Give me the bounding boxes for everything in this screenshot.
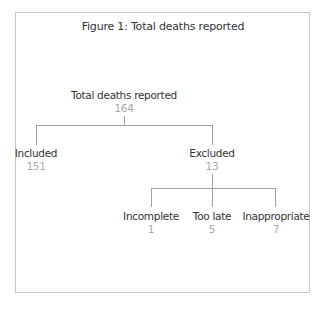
connector-level1-horizontal bbox=[36, 125, 213, 126]
node-too-late-value: 5 bbox=[182, 223, 242, 236]
node-included-value: 151 bbox=[6, 160, 66, 173]
connector-level2-horizontal bbox=[151, 188, 276, 189]
node-total-value: 164 bbox=[64, 102, 184, 115]
node-inappropriate-label: Inappropriate bbox=[240, 210, 312, 223]
connector-excluded-stem bbox=[212, 174, 213, 207]
node-excluded-label: Excluded bbox=[182, 147, 242, 160]
node-included-label: Included bbox=[6, 147, 66, 160]
connector-incomplete-drop bbox=[151, 188, 152, 207]
connector-excluded-drop bbox=[212, 125, 213, 145]
node-included: Included 151 bbox=[6, 147, 66, 173]
node-incomplete-value: 1 bbox=[116, 223, 186, 236]
connector-included-drop bbox=[36, 125, 37, 145]
node-excluded-value: 13 bbox=[182, 160, 242, 173]
node-total-label: Total deaths reported bbox=[64, 89, 184, 102]
node-inappropriate: Inappropriate 7 bbox=[240, 210, 312, 236]
node-incomplete: Incomplete 1 bbox=[116, 210, 186, 236]
connector-inappropriate-drop bbox=[275, 188, 276, 207]
node-too-late-label: Too late bbox=[182, 210, 242, 223]
node-inappropriate-value: 7 bbox=[240, 223, 312, 236]
node-too-late: Too late 5 bbox=[182, 210, 242, 236]
node-incomplete-label: Incomplete bbox=[116, 210, 186, 223]
node-excluded: Excluded 13 bbox=[182, 147, 242, 173]
figure-title: Figure 1: Total deaths reported bbox=[0, 20, 326, 33]
node-total: Total deaths reported 164 bbox=[64, 89, 184, 115]
